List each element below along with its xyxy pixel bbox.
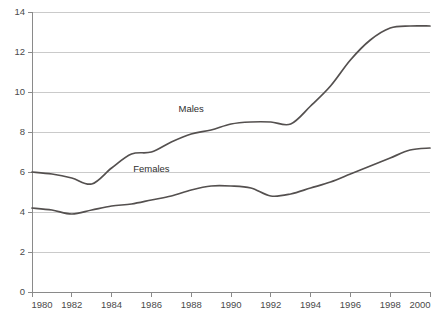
y-tick-label-10: 10	[14, 86, 25, 97]
data-series	[32, 26, 430, 214]
series-line-males	[32, 26, 430, 184]
y-axis-tick-labels: 02468101214	[14, 6, 25, 297]
line-chart: 02468101214 1980198219841986198819901992…	[0, 0, 444, 321]
y-tick-label-8: 8	[20, 126, 25, 137]
series-label-females: Females	[133, 163, 170, 174]
x-tick-label-1986: 1986	[141, 299, 162, 310]
y-tick-label-0: 0	[20, 286, 25, 297]
y-tick-label-14: 14	[14, 6, 25, 17]
x-tick-label-1998: 1998	[380, 299, 401, 310]
y-tick-label-12: 12	[14, 46, 25, 57]
y-tick-label-6: 6	[20, 166, 25, 177]
x-tick-label-1988: 1988	[181, 299, 202, 310]
x-tick-label-1982: 1982	[61, 299, 82, 310]
series-inline-labels: MalesFemales	[133, 103, 204, 174]
x-tick-label-1980: 1980	[31, 299, 52, 310]
series-line-females	[32, 148, 430, 214]
series-label-males: Males	[179, 103, 205, 114]
y-tick-label-4: 4	[20, 206, 25, 217]
x-tick-label-1984: 1984	[101, 299, 122, 310]
axis-ticks	[28, 12, 430, 297]
x-tick-label-1996: 1996	[340, 299, 361, 310]
chart-container: 02468101214 1980198219841986198819901992…	[0, 0, 444, 321]
x-axis-tick-labels: 1980198219841986198819901992199419961998…	[31, 299, 430, 310]
x-tick-label-1994: 1994	[300, 299, 321, 310]
x-tick-label-1992: 1992	[260, 299, 281, 310]
x-tick-label-2000: 2000	[409, 299, 430, 310]
gridlines	[32, 12, 430, 292]
x-tick-label-1990: 1990	[220, 299, 241, 310]
y-tick-label-2: 2	[20, 246, 25, 257]
